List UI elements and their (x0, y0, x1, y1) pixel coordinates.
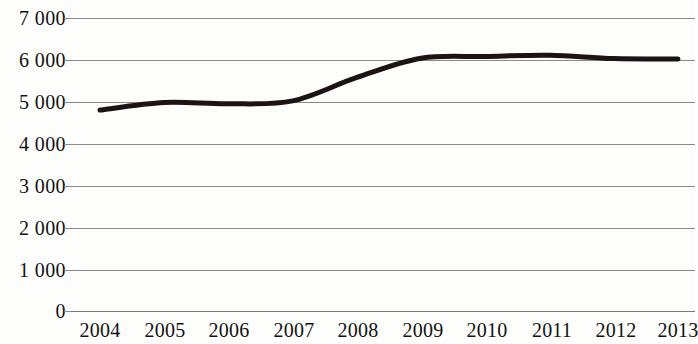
y-axis-tick-labels: 7 000 6 000 5 000 4 000 3 000 2 000 1 00… (0, 0, 68, 320)
y-axis-tick-label: 1 000 (19, 260, 66, 280)
y-axis-tick-label: 4 000 (19, 134, 66, 154)
x-axis-tick-label: 2006 (209, 318, 250, 342)
x-axis-tick-labels: 2004 2005 2006 2007 2008 2009 2010 2011 … (70, 318, 695, 344)
x-axis-tick-label: 2005 (145, 318, 186, 342)
x-axis-tick-label: 2004 (80, 318, 121, 342)
x-axis-tick-label: 2013 (658, 318, 698, 342)
x-axis-tick-label: 2008 (338, 318, 379, 342)
plot-area (70, 0, 695, 320)
y-axis-tick-label: 3 000 (19, 176, 66, 196)
series-path (100, 55, 678, 110)
x-axis-tick-label: 2009 (403, 318, 444, 342)
data-series-line (70, 0, 695, 320)
y-axis-tick-label: 7 000 (19, 8, 66, 28)
x-axis-tick-label: 2010 (467, 318, 508, 342)
y-axis-tick-label: 2 000 (19, 218, 66, 238)
x-axis-tick-label: 2007 (274, 318, 315, 342)
x-axis-tick-label: 2012 (596, 318, 637, 342)
y-axis-tick-label: 6 000 (19, 50, 66, 70)
y-axis-tick-label: 5 000 (19, 92, 66, 112)
x-axis-tick-label: 2011 (532, 318, 572, 342)
